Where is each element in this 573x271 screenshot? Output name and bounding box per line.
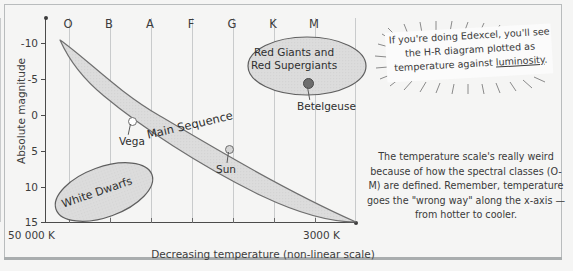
spectral-class-label-k: K bbox=[258, 17, 288, 31]
y-tick-mark--5 bbox=[41, 79, 46, 80]
x-axis-line bbox=[45, 222, 356, 223]
x-tick-mark-5 bbox=[233, 218, 234, 223]
hr-diagram-figure: O B A F G K M -10 -5 0 5 10 15 Absolute … bbox=[0, 0, 573, 271]
spectral-class-label-b: B bbox=[94, 17, 124, 31]
spectral-class-label-m: M bbox=[299, 17, 329, 31]
spectral-class-label-a: A bbox=[135, 17, 165, 31]
red-giants-label-line2: Red Supergiants bbox=[251, 59, 337, 72]
spectral-class-label-g: G bbox=[217, 17, 247, 31]
starburst-text-underlined: luminosity bbox=[496, 54, 545, 68]
y-axis-title: Absolute magnitude bbox=[15, 46, 27, 176]
x-tick-mark-1 bbox=[69, 218, 70, 223]
gridline-right-edge bbox=[355, 18, 356, 222]
y-tick-mark-10 bbox=[41, 187, 46, 188]
y-tick-mark-5 bbox=[41, 151, 46, 152]
main-sequence-label: Main Sequence bbox=[146, 109, 235, 141]
x-axis-temp-left-label: 50 000 K bbox=[8, 229, 55, 241]
vega-leader-line bbox=[128, 124, 131, 135]
betelgeuse-star-marker bbox=[303, 78, 314, 89]
y-tick-mark--10 bbox=[41, 43, 46, 44]
betelgeuse-label: Betelgeuse bbox=[297, 100, 356, 112]
x-tick-mark-7 bbox=[315, 218, 316, 223]
x-tick-mark-3 bbox=[151, 218, 152, 223]
x-tick-mark-4 bbox=[192, 218, 193, 223]
sun-label: Sun bbox=[216, 163, 236, 175]
y-tick-mark-15 bbox=[41, 222, 46, 223]
temperature-scale-note: The temperature scale's really weird bec… bbox=[366, 150, 566, 223]
vega-label: Vega bbox=[119, 135, 145, 147]
spectral-class-label-f: F bbox=[176, 17, 206, 31]
starburst-text-part2: . bbox=[544, 54, 548, 65]
white-dwarfs-label: White Dwarfs bbox=[60, 174, 134, 210]
x-axis-title: Decreasing temperature (non-linear scale… bbox=[88, 248, 438, 260]
sun-star-marker bbox=[225, 145, 234, 154]
x-axis-arrow-cap bbox=[354, 221, 358, 225]
y-axis-arrow-cap bbox=[44, 16, 48, 20]
y-tick-label-10: 10 bbox=[12, 181, 38, 193]
starburst-text-part1: If you're doing Edexcel, you'll see the … bbox=[389, 26, 550, 74]
red-giants-label-line1: Red Giants and bbox=[251, 46, 337, 59]
page-frame-top bbox=[4, 4, 562, 5]
starburst-callout: If you're doing Edexcel, you'll see the … bbox=[372, 14, 564, 94]
gridline-a-f bbox=[0, 18, 1, 222]
red-giants-label: Red Giants and Red Supergiants bbox=[251, 46, 337, 72]
x-tick-mark-2 bbox=[110, 218, 111, 223]
x-tick-mark-6 bbox=[274, 218, 275, 223]
spectral-class-label-o: O bbox=[53, 17, 83, 31]
y-tick-mark-0 bbox=[41, 115, 46, 116]
gridline-a-f2 bbox=[151, 18, 152, 222]
x-axis-temp-right-label: 3000 K bbox=[303, 229, 340, 241]
y-axis-line bbox=[45, 18, 46, 223]
sun-leader-line bbox=[226, 152, 229, 163]
page-frame-left bbox=[4, 4, 5, 258]
gridline-o-b bbox=[69, 18, 70, 222]
y-tick-label-15: 15 bbox=[12, 216, 38, 228]
